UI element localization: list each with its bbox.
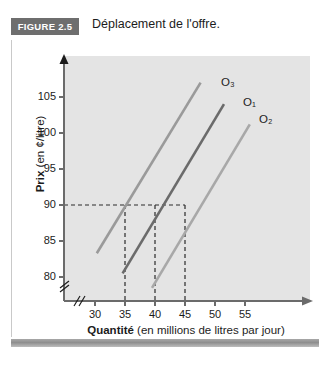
supply-curves <box>97 83 250 288</box>
y-tick-label: 85 <box>26 234 56 246</box>
curve-label-o2: O₂ <box>259 113 272 125</box>
x-tick-label: 30 <box>82 308 108 320</box>
y-axis-title: Prix (en ¢/litre) <box>34 88 46 220</box>
axis-ticks <box>59 97 245 306</box>
x-tick-label: 45 <box>172 308 198 320</box>
axis-title-bold: Quantité <box>87 324 134 336</box>
curve-label-o3: O₃ <box>221 76 235 88</box>
x-axis-title: Quantité (en millions de litres par jour… <box>46 324 326 336</box>
figure-container: FIGURE 2.5 Déplacement de l'offre. 80859… <box>0 0 333 367</box>
axis-lines <box>60 54 314 306</box>
axis-title-unit: (en ¢/litre) <box>34 116 46 171</box>
bottom-accent-bar <box>11 339 319 347</box>
x-tick-label: 50 <box>202 308 228 320</box>
x-tick-label: 55 <box>232 308 258 320</box>
axis-title-unit: (en millions de litres par jour) <box>134 324 285 336</box>
y-tick-label: 80 <box>26 270 56 282</box>
x-tick-label: 40 <box>142 308 168 320</box>
axis-title-bold: Prix <box>34 171 46 193</box>
guide-lines <box>64 205 185 301</box>
curve-label-o1: O₁ <box>243 96 256 108</box>
x-tick-label: 35 <box>112 308 138 320</box>
